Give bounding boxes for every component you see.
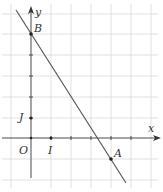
grid xyxy=(2,4,158,188)
point-o xyxy=(30,137,33,140)
ticks xyxy=(29,55,131,140)
point-i-label: I xyxy=(47,144,53,157)
point-j-label: J xyxy=(17,111,24,124)
origin-label: O xyxy=(19,144,28,157)
point-b xyxy=(29,32,33,36)
x-axis-label: x xyxy=(148,122,155,135)
point-a xyxy=(109,157,113,161)
coordinate-plane: y x B A J I O xyxy=(0,0,163,192)
point-b-label: B xyxy=(33,22,42,35)
point-j xyxy=(30,117,33,120)
point-a-label: A xyxy=(113,147,122,160)
y-axis-label: y xyxy=(34,6,42,19)
point-i xyxy=(50,137,53,140)
